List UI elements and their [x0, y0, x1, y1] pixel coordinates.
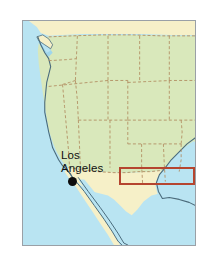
map-page: Los Angeles	[0, 0, 212, 265]
canada-landmass	[29, 21, 195, 36]
map-frame: Los Angeles	[22, 20, 196, 246]
united-states-landmass	[38, 35, 195, 173]
map-graphic	[23, 21, 195, 245]
study-area-rectangle	[119, 167, 195, 185]
los-angeles-marker-dot	[68, 177, 77, 186]
